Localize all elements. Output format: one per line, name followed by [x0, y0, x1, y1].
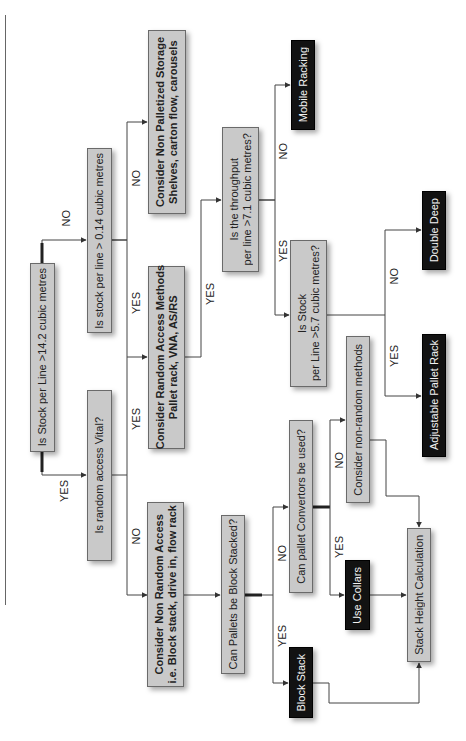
edge-label-throughput-yes: YES [277, 240, 289, 262]
node-throughput-question: Is the throughputper line >7.1 cubic met… [222, 127, 259, 272]
node-convertors-question: Can pallet Convertors be used? [289, 420, 313, 593]
node-label: Mobile Racking [297, 47, 310, 122]
node-use-collars: Use Collars [345, 560, 370, 630]
edge-label-q2-yes: YES [130, 292, 142, 314]
edge-label-q3-yes: YES [130, 408, 142, 430]
node-label: Is Stockper Line >5.7 cubic metres? [296, 245, 322, 381]
node-label: Double Deep [428, 198, 441, 262]
node-label: Use Collars [351, 567, 364, 624]
node-non-random-methods: Consider non-random methods [346, 336, 370, 503]
edge-label-random-access-yes: YES [204, 283, 216, 305]
node-stock-over-0-14: Is stock per line > 0.14 cubic metres [87, 148, 112, 333]
node-label: Is stock per line > 0.14 cubic metres [93, 153, 106, 329]
edge-label-q1-no: NO [60, 210, 72, 227]
edge-label-q1-yes: YES [58, 480, 70, 502]
edge-label-stock-5-7-no: NO [388, 268, 400, 285]
node-label: Adjustable Pallet Rack [428, 340, 441, 450]
node-non-random-access: Consider Non Random Accessi.e. Block sta… [147, 502, 184, 687]
edge-label-convertors-yes: YES [333, 536, 345, 558]
node-label: Consider Non Palletized StorageShelves, … [154, 37, 180, 207]
node-adjustable-pallet-rack: Adjustable Pallet Rack [422, 334, 446, 457]
node-block-stacked-question: Can Pallets be Block Stacked? [221, 515, 245, 674]
node-stock-over-14-2: Is Stock per Line >14.2 cubic metres [30, 263, 55, 452]
edge-label-block-stacked-no: NO [276, 545, 288, 562]
node-label: Can Pallets be Block Stacked? [227, 519, 240, 669]
node-label: Block Stack [295, 654, 308, 711]
node-label: Consider non-random methods [352, 344, 365, 496]
node-label: Is the throughputper line >7.1 cubic met… [228, 133, 254, 265]
edge-label-q2-no: NO [130, 170, 142, 187]
node-stock-over-5-7: Is Stockper Line >5.7 cubic metres? [290, 240, 327, 387]
node-label: Stack Height Calculation [413, 535, 426, 655]
edge-label-stock-5-7-yes: YES [388, 345, 400, 367]
edge-label-block-stacked-yes: YES [276, 625, 288, 647]
node-label: Is Stock per Line >14.2 cubic metres [36, 268, 49, 446]
node-random-access-methods: Consider Random Access MethodsPallet rac… [148, 266, 185, 449]
node-double-deep: Double Deep [422, 191, 446, 270]
node-mobile-racking: Mobile Racking [291, 40, 315, 130]
node-label: Consider Non Random Accessi.e. Block sta… [153, 505, 179, 684]
node-block-stack: Block Stack [289, 647, 313, 718]
node-label: Can pallet Convertors be used? [295, 429, 308, 584]
node-non-palletized-storage: Consider Non Palletized StorageShelves, … [148, 30, 186, 214]
node-stack-height-calculation: Stack Height Calculation [407, 528, 431, 662]
edge-label-q3-no: NO [130, 528, 142, 545]
edge-label-throughput-no: NO [277, 143, 289, 160]
node-label: Is random access Vital? [93, 417, 106, 534]
node-random-access-vital: Is random access Vital? [87, 390, 112, 561]
edge-label-convertors-no: NO [333, 452, 345, 469]
node-label: Consider Random Access MethodsPallet rac… [154, 265, 180, 449]
